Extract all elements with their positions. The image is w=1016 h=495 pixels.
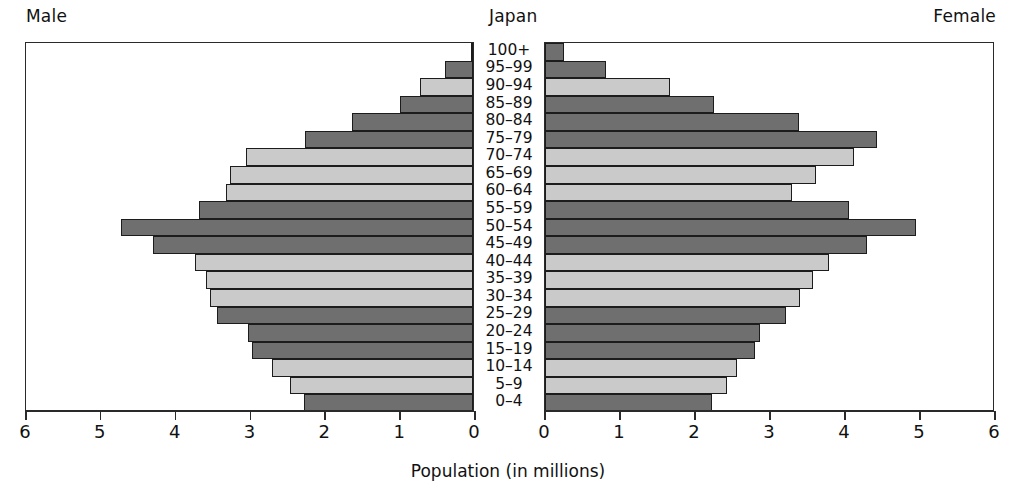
- female-bar-row: [545, 201, 993, 219]
- female-axis-tick-label: 4: [829, 421, 859, 442]
- female-bar-row: [545, 219, 993, 237]
- age-group-label: 50–54: [474, 219, 544, 235]
- female-bar: [545, 201, 849, 219]
- female-bar: [545, 96, 714, 114]
- male-bar-row: [26, 43, 473, 61]
- male-bar: [195, 254, 473, 272]
- female-bar-row: [545, 113, 993, 131]
- female-bar-row: [545, 236, 993, 254]
- male-axis-tick-label: 0: [459, 421, 489, 442]
- female-bar: [545, 166, 816, 184]
- age-group-label: 100+: [474, 43, 544, 59]
- female-axis-tick-label: 1: [604, 421, 634, 442]
- female-bar-row: [545, 166, 993, 184]
- male-bar-row: [26, 236, 473, 254]
- female-bar-row: [545, 307, 993, 325]
- female-bar-row: [545, 271, 993, 289]
- male-bar: [252, 342, 473, 360]
- female-axis-tick: [769, 411, 771, 420]
- male-side-label: Male: [26, 6, 67, 26]
- male-bar: [352, 113, 473, 131]
- male-axis-tick: [100, 411, 102, 420]
- x-axis-title: Population (in millions): [0, 461, 1016, 481]
- female-bar: [545, 289, 800, 307]
- male-axis-tick-label: 4: [160, 421, 190, 442]
- male-axis-tick: [474, 411, 476, 420]
- male-bar-row: [26, 254, 473, 272]
- female-bar: [545, 61, 606, 79]
- male-axis-tick: [175, 411, 177, 420]
- chart-title: Japan: [489, 6, 537, 26]
- male-axis-tick-label: 1: [384, 421, 414, 442]
- male-bar-row: [26, 201, 473, 219]
- male-bar: [290, 377, 473, 395]
- female-axis-tick-label: 3: [754, 421, 784, 442]
- female-bar: [545, 131, 877, 149]
- age-group-label: 15–19: [474, 342, 544, 358]
- age-group-axis: 100+95–9990–9485–8980–8475–7970–7465–696…: [474, 42, 544, 411]
- male-bar: [226, 184, 473, 202]
- female-bar-row: [545, 254, 993, 272]
- male-axis-tick-label: 3: [235, 421, 265, 442]
- male-bar-row: [26, 131, 473, 149]
- age-group-label: 85–89: [474, 96, 544, 112]
- female-bar-row: [545, 342, 993, 360]
- male-bar: [246, 148, 473, 166]
- male-bar-row: [26, 166, 473, 184]
- age-group-label: 5–9: [474, 377, 544, 393]
- age-group-label: 10–14: [474, 359, 544, 375]
- female-bar: [545, 43, 564, 61]
- female-axis-tick-label: 2: [679, 421, 709, 442]
- population-pyramid-chart: Male Japan Female 100+95–9990–9485–8980–…: [0, 0, 1016, 495]
- female-bar-row: [545, 61, 993, 79]
- male-bar: [121, 219, 473, 237]
- female-bar-row: [545, 184, 993, 202]
- female-axis-tick: [619, 411, 621, 420]
- male-bar: [471, 43, 473, 61]
- female-bar: [545, 377, 727, 395]
- female-bar: [545, 219, 916, 237]
- male-bar: [230, 166, 473, 184]
- female-axis-tick-label: 5: [904, 421, 934, 442]
- male-bar-row: [26, 342, 473, 360]
- male-bar: [272, 359, 473, 377]
- male-axis-tick: [324, 411, 326, 420]
- age-group-label: 45–49: [474, 236, 544, 252]
- age-group-label: 80–84: [474, 113, 544, 129]
- age-group-label: 20–24: [474, 324, 544, 340]
- male-bar-row: [26, 219, 473, 237]
- male-bar-row: [26, 377, 473, 395]
- age-group-label: 90–94: [474, 78, 544, 94]
- male-axis-tick: [250, 411, 252, 420]
- age-group-label: 35–39: [474, 271, 544, 287]
- female-bar-row: [545, 131, 993, 149]
- age-group-label: 70–74: [474, 148, 544, 164]
- male-bar: [199, 201, 473, 219]
- age-group-label: 65–69: [474, 166, 544, 182]
- female-bar-row: [545, 43, 993, 61]
- male-axis-tick-label: 5: [85, 421, 115, 442]
- female-axis-tick-label: 6: [979, 421, 1009, 442]
- female-axis-tick: [694, 411, 696, 420]
- male-bar-row: [26, 271, 473, 289]
- male-bar: [210, 289, 473, 307]
- age-group-label: 0–4: [474, 394, 544, 410]
- female-bar: [545, 113, 799, 131]
- male-bar: [420, 78, 473, 96]
- female-bar-row: [545, 289, 993, 307]
- male-axis-tick-label: 2: [309, 421, 339, 442]
- female-bar: [545, 324, 760, 342]
- male-axis-tick-label: 6: [10, 421, 40, 442]
- male-bar-row: [26, 324, 473, 342]
- male-bar: [305, 131, 473, 149]
- female-bar: [545, 307, 786, 325]
- female-bar-row: [545, 78, 993, 96]
- male-bar-row: [26, 184, 473, 202]
- female-bar: [545, 78, 670, 96]
- age-group-label: 30–34: [474, 289, 544, 305]
- male-bar: [445, 61, 473, 79]
- male-bar-row: [26, 113, 473, 131]
- female-bar: [545, 271, 813, 289]
- female-bar: [545, 184, 792, 202]
- age-group-label: 25–29: [474, 306, 544, 322]
